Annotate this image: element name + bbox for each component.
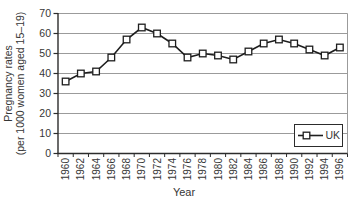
y-tick-label: 50 <box>39 47 51 59</box>
y-tick-label: 60 <box>39 27 51 39</box>
data-point-marker <box>230 56 237 63</box>
data-point-marker <box>154 30 161 37</box>
x-tick-label: 1976 <box>182 158 193 181</box>
y-tick-label: 30 <box>39 87 51 99</box>
x-tick-label: 1996 <box>334 158 345 181</box>
data-point-marker <box>337 44 344 51</box>
x-tick-label: 1964 <box>91 158 102 181</box>
x-tick-label: 1994 <box>319 158 330 181</box>
y-tick-label: 10 <box>39 127 51 139</box>
x-tick-label: 1978 <box>197 158 208 181</box>
data-point-marker <box>62 78 69 85</box>
x-tick-label: 1962 <box>75 158 86 181</box>
x-tick-label: 1984 <box>243 158 254 181</box>
x-axis-title: Year <box>173 186 196 198</box>
legend-marker <box>303 132 310 139</box>
x-tick-label: 1990 <box>289 158 300 181</box>
x-tick-label: 1982 <box>228 158 239 181</box>
data-point-marker <box>199 50 206 57</box>
pregnancy-rates-line-chart: 0102030405060701960196219641966196819701… <box>0 0 359 204</box>
x-tick-label: 1992 <box>304 158 315 181</box>
x-tick-label: 1960 <box>60 158 71 181</box>
y-tick-label: 70 <box>39 7 51 19</box>
y-tick-label: 40 <box>39 67 51 79</box>
y-axis-title-line: (per 1000 women aged 15–19) <box>14 12 26 156</box>
data-point-marker <box>215 52 222 59</box>
data-point-marker <box>123 36 130 43</box>
data-point-marker <box>108 54 115 61</box>
x-tick-label: 1966 <box>106 158 117 181</box>
data-point-marker <box>291 40 298 47</box>
x-tick-label: 1968 <box>121 158 132 181</box>
data-point-marker <box>260 40 267 47</box>
data-point-marker <box>169 40 176 47</box>
figure: 0102030405060701960196219641966196819701… <box>0 0 359 204</box>
data-point-marker <box>245 48 252 55</box>
x-tick-label: 1974 <box>167 158 178 181</box>
data-point-marker <box>306 46 313 53</box>
x-tick-label: 1970 <box>136 158 147 181</box>
y-tick-label: 0 <box>45 147 51 159</box>
x-tick-label: 1988 <box>274 158 285 181</box>
data-point-marker <box>78 70 85 77</box>
data-point-marker <box>321 52 328 59</box>
data-point-marker <box>276 36 283 43</box>
x-tick-label: 1972 <box>152 158 163 181</box>
data-point-marker <box>93 68 100 75</box>
data-point-marker <box>184 54 191 61</box>
x-tick-label: 1980 <box>213 158 224 181</box>
x-tick-label: 1986 <box>258 158 269 181</box>
y-axis-title-line: Pregnancy rates <box>2 45 14 121</box>
legend-label: UK <box>326 129 341 141</box>
data-point-marker <box>139 24 146 31</box>
y-tick-label: 20 <box>39 107 51 119</box>
